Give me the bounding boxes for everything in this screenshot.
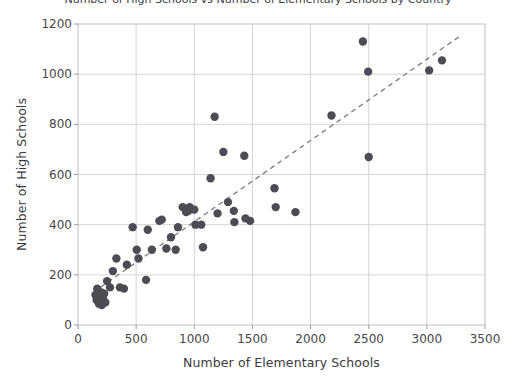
scatter-point <box>213 209 221 217</box>
scatter-chart-figure: Number of High Schools vs Number of Elem… <box>0 0 516 389</box>
scatter-point <box>106 283 114 291</box>
y-tick-label: 0 <box>28 318 72 332</box>
y-tick-label: 600 <box>28 168 72 182</box>
scatter-point <box>197 220 205 228</box>
scatter-point <box>271 203 279 211</box>
scatter-point <box>438 56 446 64</box>
scatter-point <box>270 184 278 192</box>
y-tick-label: 400 <box>28 218 72 232</box>
scatter-point <box>134 254 142 262</box>
scatter-point <box>365 153 373 161</box>
y-tick-label: 800 <box>28 117 72 131</box>
x-tick-label: 2000 <box>295 332 326 346</box>
x-tick-label: 500 <box>125 332 148 346</box>
plot-canvas <box>0 0 516 389</box>
scatter-point <box>158 215 166 223</box>
scatter-point <box>100 289 108 297</box>
x-tick-label: 2500 <box>353 332 384 346</box>
y-tick-label: 200 <box>28 268 72 282</box>
x-tick-label: 1500 <box>237 332 268 346</box>
y-axis-label: Number of High Schools <box>14 24 29 325</box>
scatter-point <box>171 246 179 254</box>
scatter-point <box>120 284 128 292</box>
scatter-point <box>133 246 141 254</box>
scatter-point <box>148 246 156 254</box>
scatter-point <box>162 244 170 252</box>
scatter-point <box>327 111 335 119</box>
scatter-point <box>144 225 152 233</box>
scatter-point <box>128 223 136 231</box>
x-tick-label: 3500 <box>470 332 501 346</box>
x-tick-label: 1000 <box>179 332 210 346</box>
scatter-point <box>101 298 109 306</box>
data-points <box>91 37 446 309</box>
scatter-point <box>109 267 117 275</box>
y-tick-label: 1000 <box>28 67 72 81</box>
scatter-point <box>174 223 182 231</box>
y-tick-label: 1200 <box>28 17 72 31</box>
scatter-point <box>291 208 299 216</box>
grid-lines <box>78 24 485 325</box>
scatter-point <box>230 218 238 226</box>
scatter-point <box>123 261 131 269</box>
x-tick-label: 0 <box>74 332 82 346</box>
scatter-point <box>230 207 238 215</box>
scatter-point <box>364 67 372 75</box>
scatter-point <box>210 113 218 121</box>
scatter-point <box>199 243 207 251</box>
scatter-point <box>219 148 227 156</box>
chart-title: Number of High Schools vs Number of Elem… <box>0 0 516 6</box>
scatter-point <box>190 205 198 213</box>
trendline <box>93 37 459 293</box>
scatter-point <box>142 276 150 284</box>
x-tick-label: 3000 <box>412 332 443 346</box>
scatter-point <box>167 233 175 241</box>
scatter-point <box>224 198 232 206</box>
scatter-point <box>240 151 248 159</box>
x-axis-label: Number of Elementary Schools <box>78 355 485 370</box>
scatter-point <box>246 217 254 225</box>
scatter-point <box>425 66 433 74</box>
scatter-point <box>359 37 367 45</box>
scatter-point <box>206 174 214 182</box>
scatter-point <box>112 254 120 262</box>
